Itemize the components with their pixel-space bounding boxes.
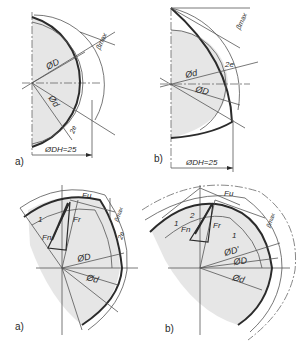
item-1-label: 1: [38, 215, 42, 224]
diameter-D-label: ØD: [232, 255, 248, 267]
diagram-bottom-right: Fu Fr Fn 1 2 1 βmax ØD' ØD Ød b): [142, 185, 296, 340]
technical-diagram: βmax ØD Ød 2e ØDH=25 a) βmax 2e Ød ØD ØD…: [0, 0, 304, 350]
item-1-label: 1: [174, 219, 178, 228]
force-Fr-label: Fr: [73, 215, 81, 224]
diagram-bottom-left: Fu Fr Fn 1 βmax 2e ØD Ød a): [15, 185, 138, 335]
panel-label-a: a): [15, 156, 24, 167]
eccentricity-label: 2e: [68, 125, 78, 136]
housing-diameter-label: ØDH=25: [44, 145, 77, 154]
force-Fn-label: Fn: [181, 225, 191, 234]
force-Fu-label: Fu: [224, 189, 234, 198]
force-Fr-label: Fr: [213, 221, 221, 230]
beta-max-label: βmax: [94, 31, 109, 51]
diagram-top-right: βmax 2e Ød ØD ØDH=25 b): [154, 8, 258, 172]
eccentricity-label: 2e: [224, 60, 234, 69]
panel-label-a-bottom: a): [15, 321, 24, 332]
item-2-label: 2: [189, 211, 195, 220]
beta-max-label: βmax: [234, 11, 249, 31]
force-Fu-label: Fu: [82, 191, 92, 200]
housing-diameter-label: ØDH=25: [185, 158, 218, 167]
beta-max-label: βmax: [265, 211, 276, 229]
item-1b-label: 1: [232, 231, 236, 240]
panel-label-b-bottom: b): [165, 323, 174, 334]
beta-max-label: βmax: [113, 205, 124, 223]
force-Fn-label: Fn: [42, 233, 52, 242]
diagram-top-left: βmax ØD Ød 2e ØDH=25 a): [15, 12, 115, 167]
panel-label-b: b): [154, 153, 163, 164]
